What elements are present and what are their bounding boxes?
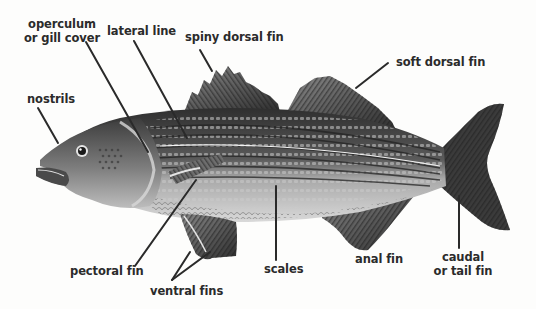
fish-head-shape [36, 118, 162, 208]
label-nostrils: nostrils [27, 92, 75, 106]
label-soft-dorsal-fin: soft dorsal fin [396, 55, 485, 69]
soft-dorsal-leader [356, 63, 388, 88]
fish-anatomy-diagram: operculum or gill cover lateral line spi… [0, 0, 536, 309]
label-operculum: operculum or gill cover [20, 17, 104, 45]
spiny-dorsal-leader [200, 50, 212, 71]
caudal-fin-shape [440, 104, 510, 231]
ventral-leader-b [172, 252, 210, 280]
label-pectoral-fin: pectoral fin [70, 264, 144, 278]
spiny-dorsal-fin-shape [185, 66, 280, 112]
label-lateral-line: lateral line [107, 24, 176, 38]
label-scales: scales [264, 262, 303, 276]
label-caudal-fin: caudal or tail fin [430, 250, 496, 278]
ventral-leader-a [172, 252, 190, 280]
label-ventral-fins: ventral fins [150, 284, 223, 298]
label-anal-fin: anal fin [355, 252, 403, 266]
label-spiny-dorsal-fin: spiny dorsal fin [185, 30, 284, 44]
nostrils-leader [38, 108, 58, 143]
